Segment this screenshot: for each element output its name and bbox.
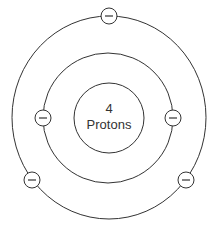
nucleus-label: Protons bbox=[74, 117, 144, 133]
electron-top bbox=[101, 8, 117, 24]
electron-inner-left bbox=[35, 110, 51, 126]
electron-inner-right bbox=[165, 110, 181, 126]
electron-outer-right bbox=[178, 172, 194, 188]
electron-outer-left bbox=[24, 172, 40, 188]
nucleus-count: 4 bbox=[74, 101, 144, 117]
